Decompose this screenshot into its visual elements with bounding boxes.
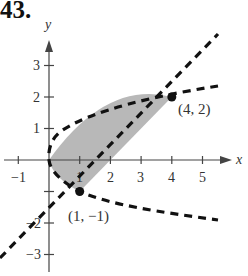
y-tick-label: 2 bbox=[33, 90, 40, 105]
x-axis-label: x bbox=[235, 152, 243, 167]
intersection-point bbox=[75, 187, 84, 196]
y-tick-label: 1 bbox=[33, 121, 40, 136]
x-tick-label: 3 bbox=[137, 170, 144, 185]
point-label: (1, −1) bbox=[68, 208, 109, 225]
y-axis-arrow-icon bbox=[45, 40, 53, 52]
x-tick-label: 5 bbox=[199, 170, 206, 185]
x-tick-label: 4 bbox=[168, 170, 175, 185]
y-axis-label: y bbox=[43, 17, 52, 32]
point-label: (4, 2) bbox=[178, 101, 211, 118]
intersection-point bbox=[167, 93, 176, 102]
x-axis-arrow-icon bbox=[220, 156, 232, 164]
x-tick-label: 2 bbox=[107, 170, 114, 185]
y-tick-label: 3 bbox=[33, 58, 40, 73]
region-graph: −1 1 2 3 4 5 3 2 1 −2 −3 x y (4, 2) (1, … bbox=[0, 0, 248, 276]
y-tick-label: −3 bbox=[26, 247, 41, 262]
x-tick-label: −1 bbox=[11, 170, 26, 185]
